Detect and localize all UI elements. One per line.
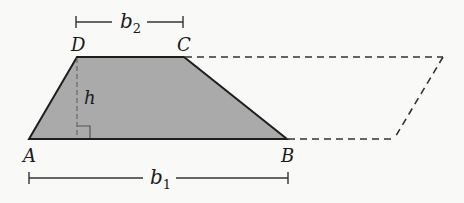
b2-dimension: b2	[76, 9, 183, 36]
diagram-svg: b2 b1 D C A B h	[0, 0, 464, 203]
vertex-label-a: A	[21, 145, 36, 166]
vertex-label-b: B	[280, 145, 294, 166]
b1-label: b1	[150, 165, 171, 192]
b2-label: b2	[120, 9, 141, 36]
vertex-label-d: D	[70, 34, 86, 55]
b1-dimension: b1	[29, 165, 288, 192]
height-label: h	[84, 87, 96, 108]
vertex-label-c: C	[177, 34, 191, 55]
parallelogram-extension-side	[394, 57, 443, 139]
trapezoid-diagram: b2 b1 D C A B h	[0, 0, 464, 203]
trapezoid-shape	[29, 57, 287, 139]
